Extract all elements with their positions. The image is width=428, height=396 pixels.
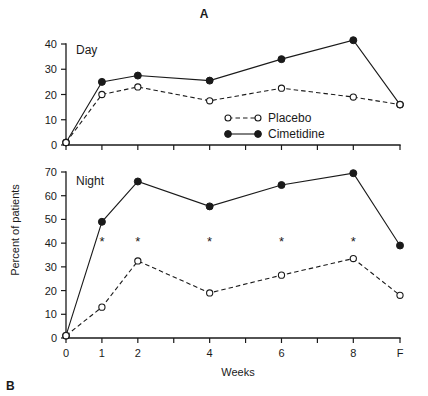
figure-letter-b: B: [6, 379, 15, 393]
panel-label-day: Day: [76, 43, 97, 57]
x-tick-label: 2: [135, 347, 141, 359]
data-point-placebo: [397, 102, 403, 108]
data-point-cimetidine: [98, 218, 105, 225]
data-point-cimetidine: [397, 242, 404, 249]
legend-marker-cimetidine-left: [225, 131, 232, 138]
y-axis-title: Percent of patients: [9, 184, 21, 276]
series-group-night: [63, 170, 404, 339]
x-tick-label: 8: [350, 347, 356, 359]
legend-marker-cimetidine-right: [255, 131, 262, 138]
y-axis-ticks-day: 010203040: [45, 38, 66, 151]
data-point-placebo: [278, 85, 284, 91]
data-point-cimetidine: [206, 203, 213, 210]
data-point-cimetidine: [350, 37, 357, 44]
data-point-cimetidine: [278, 56, 285, 63]
y-tick-label: 10: [45, 114, 57, 126]
legend-marker-placebo-left: [225, 115, 231, 121]
figure-container: A Percent of patients Day 010203040 Plac…: [0, 0, 428, 396]
y-tick-label: 30: [45, 63, 57, 75]
x-tick-label: 0: [63, 347, 69, 359]
y-tick-label: 10: [45, 308, 57, 320]
legend-marker-placebo-right: [255, 115, 261, 121]
y-tick-label: 30: [45, 261, 57, 273]
x-axis-ticks-day: [66, 145, 400, 150]
y-tick-label: 40: [45, 38, 57, 50]
data-point-placebo: [135, 84, 141, 90]
data-point-placebo: [99, 304, 105, 310]
legend: Placebo Cimetidine: [225, 111, 325, 141]
series-group-day: [63, 37, 404, 146]
x-axis-ticks-night: [66, 338, 400, 343]
data-point-placebo: [350, 255, 356, 261]
y-tick-label: 60: [45, 190, 57, 202]
figure-letter-a: A: [200, 7, 209, 21]
data-point-placebo: [99, 91, 105, 97]
x-tick-label: 1: [99, 347, 105, 359]
data-point-cimetidine: [278, 182, 285, 189]
legend-label-cimetidine: Cimetidine: [268, 127, 325, 141]
x-tick-label: 4: [207, 347, 213, 359]
significance-asterisk: *: [99, 234, 104, 249]
series-line-cimetidine: [66, 173, 400, 335]
y-tick-label: 70: [45, 166, 57, 178]
data-point-placebo: [207, 98, 213, 104]
panel-night: Night 010203040506070 012468F *****: [45, 166, 404, 359]
data-point-placebo: [63, 139, 69, 145]
legend-item-placebo: Placebo: [225, 111, 312, 125]
chart-svg: A Percent of patients Day 010203040 Plac…: [0, 0, 428, 396]
significance-asterisk: *: [135, 234, 140, 249]
y-tick-label: 20: [45, 89, 57, 101]
legend-label-placebo: Placebo: [268, 111, 312, 125]
x-axis-tick-labels: 012468F: [63, 347, 404, 359]
data-point-placebo: [207, 290, 213, 296]
series-line-placebo: [66, 259, 400, 336]
significance-markers: *****: [99, 234, 355, 249]
panel-label-night: Night: [76, 174, 105, 188]
data-point-cimetidine: [206, 77, 213, 84]
data-point-cimetidine: [134, 72, 141, 79]
y-tick-label: 40: [45, 237, 57, 249]
data-point-placebo: [135, 258, 141, 264]
data-point-placebo: [350, 94, 356, 100]
data-point-cimetidine: [134, 178, 141, 185]
data-point-placebo: [63, 333, 69, 339]
y-tick-label: 50: [45, 213, 57, 225]
y-axis-ticks-night: 010203040506070: [45, 166, 66, 344]
legend-item-cimetidine: Cimetidine: [225, 127, 325, 141]
x-axis-title: Weeks: [221, 366, 255, 378]
data-point-cimetidine: [98, 78, 105, 85]
significance-asterisk: *: [351, 234, 356, 249]
y-tick-label: 0: [51, 139, 57, 151]
data-point-placebo: [397, 292, 403, 298]
x-tick-label: 6: [278, 347, 284, 359]
y-tick-label: 0: [51, 332, 57, 344]
series-line-cimetidine: [66, 40, 400, 142]
significance-asterisk: *: [279, 234, 284, 249]
significance-asterisk: *: [207, 234, 212, 249]
x-tick-label: F: [397, 347, 404, 359]
y-tick-label: 20: [45, 285, 57, 297]
data-point-cimetidine: [350, 170, 357, 177]
data-point-placebo: [278, 272, 284, 278]
